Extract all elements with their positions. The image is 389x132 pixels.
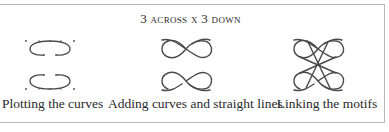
linked-knot-motif-icon (290, 38, 346, 92)
plotted-curves-motif-icon (22, 38, 78, 92)
caption-linking-the-motifs: Linking the motifs (272, 96, 382, 112)
caption-plotting-the-curves: Plotting the curves (2, 96, 102, 112)
figure-title: 3 across x 3 down (0, 11, 381, 27)
figure-eight-motif-icon (158, 38, 214, 92)
caption-adding-curves: Adding curves and straight lines (108, 96, 268, 112)
